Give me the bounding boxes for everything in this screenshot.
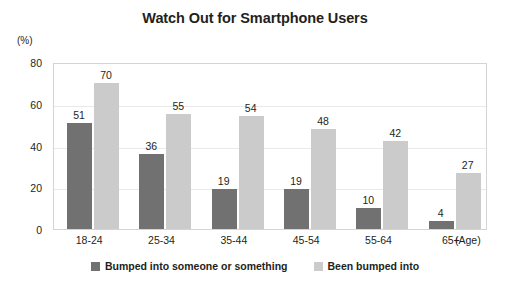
legend-item[interactable]: Bumped into someone or something: [91, 260, 288, 272]
legend-label: Bumped into someone or something: [105, 260, 288, 272]
bar-value-label: 42: [380, 128, 410, 139]
plot-area: 51703655195419481042427: [53, 63, 487, 230]
bar[interactable]: [356, 208, 381, 229]
chart-legend: Bumped into someone or somethingBeen bum…: [0, 260, 510, 272]
bar[interactable]: [166, 114, 191, 229]
bar[interactable]: [139, 154, 164, 229]
y-axis-tick-label: 20: [0, 182, 42, 194]
bar[interactable]: [67, 123, 92, 229]
chart-title: Watch Out for Smartphone Users: [0, 10, 510, 26]
bar-group: 427: [416, 64, 488, 229]
legend-item[interactable]: Been bumped into: [314, 260, 420, 272]
x-axis-tick-label: 35-44: [198, 234, 270, 246]
x-axis-tick-label: 45-54: [270, 234, 342, 246]
y-axis-unit-label: (%): [17, 35, 33, 46]
bar-value-label: 27: [453, 160, 483, 171]
bar-value-label: 36: [136, 141, 166, 152]
x-axis-tick-label: 18-24: [53, 234, 125, 246]
y-axis-tick-label: 60: [0, 99, 42, 111]
bar-value-label: 54: [236, 103, 266, 114]
bar-value-label: 4: [426, 208, 456, 219]
x-axis-tick-label: 25-34: [125, 234, 197, 246]
bar[interactable]: [383, 141, 408, 229]
bar-value-label: 19: [281, 176, 311, 187]
x-axis-unit-label: (Age): [455, 234, 481, 246]
bar[interactable]: [284, 189, 309, 229]
bar-value-label: 10: [353, 195, 383, 206]
bar-group: 1954: [199, 64, 271, 229]
bar[interactable]: [429, 221, 454, 229]
legend-swatch-icon: [314, 262, 323, 271]
bar-value-label: 19: [209, 176, 239, 187]
bar[interactable]: [239, 116, 264, 229]
bar-value-label: 48: [308, 116, 338, 127]
bar-value-label: 70: [91, 70, 121, 81]
bar[interactable]: [212, 189, 237, 229]
bar-group: 1948: [271, 64, 343, 229]
x-axis-tick-label: 55-64: [342, 234, 414, 246]
bar-value-label: 55: [163, 101, 193, 112]
bar-value-label: 51: [64, 110, 94, 121]
bar-group: 3655: [126, 64, 198, 229]
legend-swatch-icon: [91, 262, 100, 271]
bar-group: 5170: [54, 64, 126, 229]
bar-group: 1042: [343, 64, 415, 229]
legend-label: Been bumped into: [328, 260, 420, 272]
y-axis-tick-label: 40: [0, 141, 42, 153]
bar[interactable]: [456, 173, 481, 229]
y-axis-tick-label: 80: [0, 57, 42, 69]
y-axis-tick-label: 0: [0, 224, 42, 236]
bar[interactable]: [311, 129, 336, 229]
bar[interactable]: [94, 83, 119, 229]
